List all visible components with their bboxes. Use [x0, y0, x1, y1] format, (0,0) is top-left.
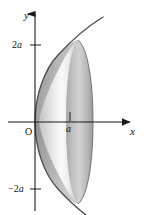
tick-label-2a: 2a [12, 40, 22, 50]
figure-canvas: y x 2a −2a a O [0, 0, 146, 215]
tick-label-minus-2a: −2a [8, 184, 24, 194]
y-axis-label: y [24, 10, 29, 21]
tick-label-a: a [66, 124, 71, 134]
origin-label: O [25, 127, 32, 137]
x-axis-label: x [130, 126, 135, 137]
